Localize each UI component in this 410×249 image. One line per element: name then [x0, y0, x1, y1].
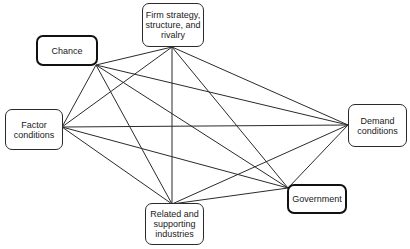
edge-factor-demand [62, 125, 348, 127]
node-label-related-industries: Related and supporting industries [150, 209, 199, 239]
edge-factor-government [62, 127, 288, 188]
edge-firm-demand [172, 47, 348, 125]
edge-firm-government [172, 47, 288, 188]
node-label-demand-conditions: Demand conditions [357, 116, 398, 136]
edge-chance-firm [96, 47, 172, 65]
edge-factor-related [62, 127, 172, 204]
node-factor-conditions: Factor conditions [5, 109, 63, 150]
node-chance: Chance [36, 35, 98, 66]
edge-chance-related [96, 65, 172, 204]
node-firm-strategy: Firm strategy, structure, and rivalry [142, 3, 204, 47]
node-label-chance: Chance [51, 46, 82, 56]
node-related-industries: Related and supporting industries [145, 203, 204, 245]
node-demand-conditions: Demand conditions [348, 104, 407, 147]
node-label-firm-strategy: Firm strategy, structure, and rivalry [145, 10, 200, 40]
node-government: Government [287, 184, 347, 214]
edge-chance-factor [62, 65, 96, 127]
edge-demand-government [288, 125, 348, 188]
node-label-government: Government [292, 194, 342, 204]
node-label-factor-conditions: Factor conditions [14, 120, 55, 140]
porter-diamond-diagram: Chance Firm strategy, structure, and riv… [0, 0, 410, 249]
edge-chance-demand [96, 65, 348, 125]
